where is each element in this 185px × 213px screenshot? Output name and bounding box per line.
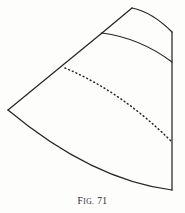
caption-inner: Fig.71: [78, 190, 108, 208]
caption-abbrev-rest: ig.: [83, 197, 94, 206]
figure-caption: Fig.71: [0, 190, 185, 208]
caption-figure-number: 71: [97, 196, 107, 206]
figure-drawing: [0, 0, 185, 213]
paper-background: [0, 0, 185, 213]
figure-container: Fig.71: [0, 0, 185, 213]
caption-abbreviation: Fig.: [78, 197, 95, 206]
